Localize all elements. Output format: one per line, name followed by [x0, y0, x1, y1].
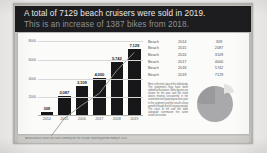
table-cell-name: Beach [148, 39, 178, 44]
headline-primary: A total of 7129 beach cruisers were sold… [24, 9, 206, 18]
x-axis-tick-label: 2018 [111, 117, 124, 121]
bar-chart: 3092,0873,1094,0005,7427,129 20004000600… [21, 37, 145, 129]
table-cell-year: 2015 [178, 45, 204, 50]
x-axis-tick-label: 2019 [128, 117, 141, 121]
x-axis-tick-label: 2017 [93, 117, 106, 121]
x-axis-tick-label: 2016 [76, 117, 89, 121]
x-axis-tick-label: 2014 [41, 117, 54, 121]
table-row: Beach20197129 [148, 71, 246, 78]
table-row: Beach2014309 [148, 38, 246, 45]
table-row: Beach20163109 [148, 51, 246, 58]
table-cell-year: 2016 [178, 52, 204, 57]
table-cell-value: 4000 [204, 59, 234, 64]
bar-chart-plot: 3092,0873,1094,0005,7427,129 20004000600… [38, 41, 143, 116]
table-row: Beach20185742 [148, 64, 246, 71]
bar [76, 86, 89, 115]
x-axis-line [38, 115, 143, 116]
data-table: Beach2014309Beach20152087Beach20163109Be… [148, 38, 246, 78]
table-cell-name: Beach [148, 52, 178, 57]
table-cell-value: 3109 [204, 52, 234, 57]
grid-line: 2000 [38, 97, 143, 98]
bar-value-label: 4,000 [94, 72, 104, 77]
pie-chart-exploded-slice [215, 84, 234, 103]
grid-line: 6000 [38, 60, 143, 61]
x-axis-tick-label: 2015 [58, 117, 71, 121]
table-cell-name: Beach [148, 59, 178, 64]
table-cell-value: 7129 [204, 72, 234, 77]
table-cell-year: 2017 [178, 59, 204, 64]
table-cell-name: Beach [148, 45, 178, 50]
body-copy-text: Here is the text copy of the slide body.… [148, 83, 188, 117]
y-axis-tick-label: 8000 [28, 39, 36, 43]
table-cell-year: 2014 [178, 39, 204, 44]
grid-line: 4000 [38, 79, 143, 80]
y-axis-tick-label: 6000 [28, 58, 36, 62]
grid-line: 8000 [38, 41, 143, 42]
table-cell-value: 5742 [204, 65, 234, 70]
table-cell-year: 2019 [178, 72, 204, 77]
y-axis-tick-label: 2000 [28, 95, 36, 99]
slide-body: 3092,0873,1094,0005,7427,129 20004000600… [18, 33, 249, 134]
table-cell-value: 309 [204, 39, 234, 44]
table-cell-value: 2087 [204, 45, 234, 50]
header-banner: A total of 7129 beach cruisers were sold… [15, 6, 251, 32]
bar [111, 62, 124, 115]
caption-strip: Annual beach cruiser unit sales summary … [18, 136, 249, 143]
headline-secondary: This is an increase of 1387 bikes from 2… [24, 20, 189, 29]
bar [58, 96, 71, 115]
bar-value-label: 309 [43, 106, 50, 111]
pie-chart [193, 80, 245, 128]
caption-text: Annual beach cruiser unit sales summary … [25, 137, 242, 140]
bar-value-label: 3,109 [77, 80, 87, 85]
x-axis-labels: 201420152016201720182019 [38, 117, 143, 127]
table-row: Beach20174000 [148, 58, 246, 65]
table-cell-year: 2018 [178, 65, 204, 70]
table-cell-name: Beach [148, 65, 178, 70]
y-axis-tick-label: 4000 [28, 77, 36, 81]
table-row: Beach20152087 [148, 45, 246, 52]
table-cell-name: Beach [148, 72, 178, 77]
bar-value-label: 2,087 [59, 90, 69, 95]
bar-value-label: 7,129 [129, 43, 139, 48]
slide-photo: A total of 7129 beach cruisers were sold… [0, 0, 267, 153]
